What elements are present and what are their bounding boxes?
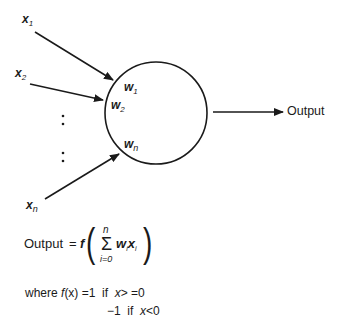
term-x-sub: i — [135, 245, 137, 252]
ellipsis-dots — [62, 115, 65, 163]
formula-terms: wixi — [116, 236, 136, 252]
formula-equals: = — [69, 236, 77, 251]
input-var: x — [22, 12, 29, 26]
weight-label-w1: w1 — [124, 81, 138, 96]
definition-line-1: where f(x) =1 if x> =0 — [25, 286, 145, 300]
input-var: x — [26, 198, 33, 212]
weight-label-wn: wn — [124, 138, 138, 153]
perceptron-diagram — [0, 0, 343, 323]
def-value-2: −1 — [107, 304, 121, 318]
formula-lhs: Output — [24, 236, 63, 251]
input-label-xn: xn — [26, 199, 38, 214]
input-arrow-2 — [30, 84, 103, 100]
definition-line-2: −1 if x<0 — [107, 304, 160, 318]
def-cond-1: > =0 — [121, 286, 145, 300]
input-label-x1: x1 — [22, 13, 33, 28]
input-subscript: n — [33, 204, 38, 214]
input-var: x — [15, 66, 22, 80]
formula-open-paren: ( — [86, 223, 95, 263]
weight-subscript: 1 — [133, 87, 137, 96]
weight-subscript: 2 — [120, 105, 124, 114]
term-w: w — [116, 236, 126, 251]
input-label-x2: x2 — [15, 67, 26, 82]
input-subscript: 2 — [22, 73, 26, 82]
weight-subscript: n — [133, 143, 138, 153]
def-value-1: =1 — [82, 286, 96, 300]
weight-label-w2: w2 — [111, 99, 125, 114]
formula-sigma: Σ — [101, 234, 112, 255]
weight-var: w — [124, 80, 133, 94]
formula-sum-lower: i=0 — [100, 254, 112, 264]
formula-func: f — [80, 236, 84, 251]
weight-var: w — [111, 98, 120, 112]
input-arrow-1 — [35, 32, 113, 80]
def-arg: (x) — [64, 286, 78, 300]
input-subscript: 1 — [29, 19, 33, 28]
formula-close-paren: ) — [143, 223, 152, 263]
def-if-2: if — [127, 304, 133, 318]
def-if-1: if — [102, 286, 108, 300]
weight-var: w — [124, 137, 133, 151]
where-word: where — [25, 286, 58, 300]
input-arrow-n — [45, 154, 119, 199]
term-x: x — [128, 236, 135, 251]
output-label: Output — [287, 105, 325, 118]
def-cond-2: <0 — [146, 304, 160, 318]
